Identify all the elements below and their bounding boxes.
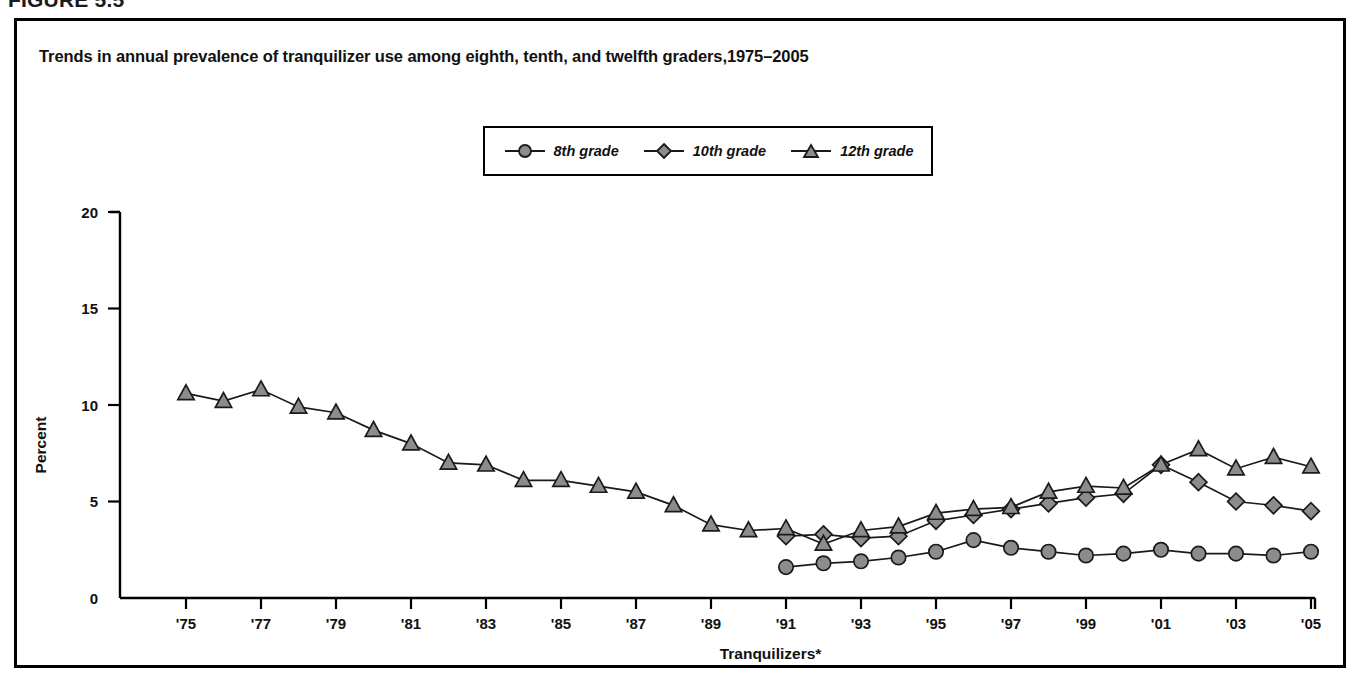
chart-legend: 8th grade 10th grade 12th grade [483, 126, 933, 176]
legend-label-8th-grade: 8th grade [554, 143, 619, 159]
legend-marker-diamond-icon [642, 142, 686, 160]
figure-panel: Trends in annual prevalence of tranquili… [14, 18, 1346, 668]
legend-item-8th-grade[interactable]: 8th grade [503, 142, 619, 160]
legend-marker-triangle-icon [789, 142, 833, 160]
figure-number-label: FIGURE 5.5 [8, 0, 124, 12]
legend-item-10th-grade[interactable]: 10th grade [642, 142, 766, 160]
legend-label-12th-grade: 12th grade [840, 143, 913, 159]
legend-marker-circle-icon [503, 142, 547, 160]
legend-item-12th-grade[interactable]: 12th grade [789, 142, 913, 160]
legend-label-10th-grade: 10th grade [693, 143, 766, 159]
figure-title: Trends in annual prevalence of tranquili… [39, 47, 809, 66]
